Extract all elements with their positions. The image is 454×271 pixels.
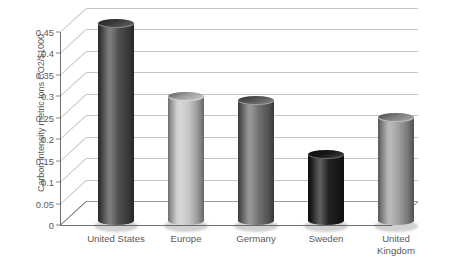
bar-top-ellipse	[168, 92, 204, 101]
bar-top-ellipse	[98, 19, 134, 28]
gridline-back	[86, 51, 418, 52]
y-tick-label: 0	[20, 220, 54, 231]
chart-container: Carbon intensity metric tons CO2/$1000 0…	[0, 0, 454, 271]
gridline-depth	[60, 30, 87, 55]
y-tick-label: 0.35	[20, 69, 54, 80]
y-axis-line	[60, 32, 61, 225]
gridline-depth	[60, 180, 87, 205]
bar-body	[378, 118, 414, 225]
plot-area: 0.450.40.350.30.250.20.150.10.050 United…	[0, 0, 454, 271]
bar-germany[interactable]	[238, 101, 274, 225]
y-tick-label: 0.45	[20, 27, 54, 38]
gridline-depth	[60, 8, 87, 33]
bar-sweden[interactable]	[308, 154, 344, 225]
y-tick-label: 0.3	[20, 91, 54, 102]
y-tick-label: 0.2	[20, 134, 54, 145]
y-tick-label: 0.1	[20, 177, 54, 188]
y-tick-label: 0.25	[20, 112, 54, 123]
axis-depth-left	[60, 201, 87, 226]
x-axis-label: UnitedKingdom	[351, 233, 441, 256]
bar-united-states[interactable]	[98, 23, 134, 225]
bar-body	[308, 154, 344, 225]
gridline-depth	[60, 51, 87, 76]
y-tick-label: 0.15	[20, 155, 54, 166]
gridline-depth	[60, 137, 87, 162]
bar-body	[98, 23, 134, 225]
y-tick-label: 0.05	[20, 198, 54, 209]
bar-body	[168, 96, 204, 225]
gridline-back	[86, 29, 418, 30]
gridline-back	[86, 94, 418, 95]
x-axis-label-line: United	[351, 233, 441, 245]
gridline-back	[86, 72, 418, 73]
bar-body	[238, 101, 274, 225]
bar-united-kingdom[interactable]	[378, 118, 414, 225]
bar-europe[interactable]	[168, 96, 204, 225]
x-axis-label-line: Kingdom	[351, 245, 441, 257]
gridline-depth	[60, 94, 87, 119]
gridline-depth	[60, 115, 87, 140]
bar-top-ellipse	[308, 150, 344, 159]
gridline-back	[86, 8, 418, 9]
y-tick-label: 0.4	[20, 48, 54, 59]
gridline-depth	[60, 158, 87, 183]
gridline-depth	[60, 72, 87, 97]
